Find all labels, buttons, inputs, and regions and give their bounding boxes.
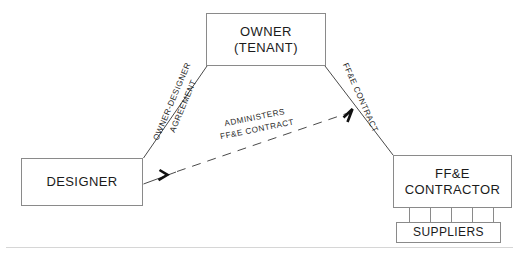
node-suppliers[interactable]: SUPPLIERS [396, 222, 501, 243]
edge-administers-arrowhead-icon [344, 109, 353, 122]
node-designer[interactable]: DESIGNER [21, 158, 143, 206]
edge-contractor-suppliers-connectors [410, 208, 494, 222]
node-owner-label-line1: OWNER [240, 24, 292, 40]
node-designer-label: DESIGNER [46, 174, 117, 190]
node-suppliers-label: SUPPLIERS [413, 225, 484, 240]
edge-designer-arrowhead-icon [159, 170, 168, 180]
bottom-divider [6, 247, 513, 248]
node-ffe-contractor[interactable]: FF&E CONTRACTOR [393, 155, 512, 208]
node-owner-label-line2: (TENANT) [234, 40, 298, 56]
node-owner[interactable]: OWNER (TENANT) [206, 13, 326, 66]
diagram-canvas: OWNER (TENANT) DESIGNER FF&E CONTRACTOR … [0, 0, 519, 256]
node-ffe-contractor-label-line1: FF&E [435, 166, 470, 182]
node-ffe-contractor-label-line2: CONTRACTOR [405, 182, 500, 198]
